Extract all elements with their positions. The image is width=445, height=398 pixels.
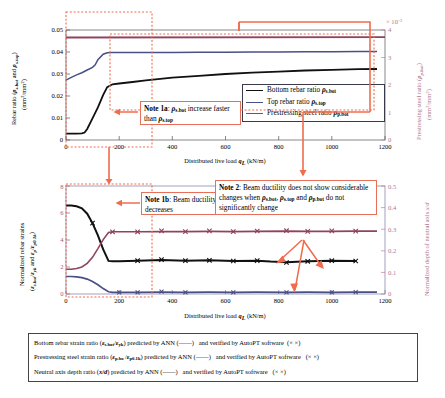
svg-text:0: 0: [60, 136, 64, 143]
legend-label-prestressing-steel-ratio: Prestressing steel ratio ρp.bot: [267, 110, 349, 117]
svg-text:600: 600: [221, 297, 232, 304]
legend-item-prestressing-steel-ratio: Prestressing steel ratio ρp.bot: [243, 108, 384, 120]
svg-text:400: 400: [167, 297, 178, 304]
top-chart-legend: Bottom rebar ratio ρs.bot Top rebar rati…: [242, 84, 385, 122]
series-prestressing-steel-strain-ratio: [66, 277, 377, 293]
note-1b-text: Note 1b: Beam ductility decreases: [145, 195, 216, 214]
legend-item-bottom-rebar-ratio: Bottom rebar ratio ρs.bot: [243, 85, 384, 97]
svg-text:200: 200: [114, 143, 125, 150]
svg-text:2: 2: [60, 263, 63, 270]
top-chart-xlabel: Distributed live load qL (kN/m): [184, 157, 265, 166]
note-1a-text: Note 1a: ρs.bot increase faster than ρs.…: [144, 104, 230, 123]
top-chart-xticklabels: 0 200 400 600 800 1000 1200: [64, 143, 392, 150]
svg-text:0.1: 0.1: [388, 269, 396, 276]
svg-text:0.3: 0.3: [388, 226, 397, 233]
svg-text:1200: 1200: [378, 143, 392, 150]
svg-text:0.04: 0.04: [51, 48, 63, 55]
series-top-rebar-ratio: [66, 52, 377, 81]
legend-label-top-rebar-ratio: Top rebar ratio ρs.top: [267, 99, 326, 106]
svg-text:3: 3: [388, 54, 392, 61]
legend-item-top-rebar-ratio: Top rebar ratio ρs.top: [243, 97, 384, 109]
svg-text:1000: 1000: [325, 143, 339, 150]
svg-text:1: 1: [388, 109, 391, 116]
svg-text:400: 400: [167, 143, 178, 150]
bottom-chart-xlabel: Distributed live load qL (kN/m): [184, 312, 265, 321]
note-1a: Note 1a: ρs.bot increase faster than ρs.…: [140, 101, 241, 125]
series-neutral-axis-depth-ratio: [66, 231, 377, 269]
svg-text:800: 800: [274, 297, 285, 304]
top-chart-ylabel-right: Prestressing steel ratio (ρp.bot): [415, 63, 424, 140]
svg-text:600: 600: [221, 143, 232, 150]
svg-text:2: 2: [388, 81, 391, 88]
note-2-text: Note 2: Beam ductility does not show con…: [219, 183, 368, 212]
bottom-chart-ylabel-right: Normalized depth of neutral axis x/d: [423, 202, 430, 296]
svg-text:0.5: 0.5: [388, 183, 397, 190]
bottom-chart-xticklabels: 0 200 400 600 800 1000 1200: [64, 297, 392, 304]
svg-text:0.4: 0.4: [388, 204, 397, 211]
note-1b: Note 1b: Beam ductility decreases: [141, 192, 221, 215]
top-chart-ylabel-left: Rebar ratio (ρs.bot and ρs.top): [10, 52, 19, 125]
top-chart-ylabel-right-units: (mm2/mm2): [425, 89, 433, 120]
markers-bottom-rebar-strain-ratio: [90, 221, 358, 265]
svg-text:0: 0: [64, 143, 68, 150]
svg-text:1200: 1200: [378, 297, 392, 304]
caption-line-neutral-axis-depth: Neutral axis depth ratio (x/d) predicted…: [34, 365, 412, 379]
caption-line-prestressing-steel-strain: Prestressing steel strain ratio (εp.bo /…: [34, 351, 412, 365]
svg-text:0: 0: [64, 297, 68, 304]
svg-text:1000: 1000: [325, 297, 339, 304]
svg-text:200: 200: [114, 297, 125, 304]
bottom-chart-ylabel-left: Normalized rebar strains: [18, 222, 25, 286]
svg-text:0.02: 0.02: [51, 92, 63, 99]
svg-text:800: 800: [274, 143, 285, 150]
bottom-chart-yticklabels-left: 0 2 4 6 8: [60, 183, 64, 297]
svg-text:6: 6: [60, 209, 64, 216]
svg-text:4: 4: [60, 236, 64, 243]
note-2: Note 2: Beam ductility does not show con…: [215, 180, 377, 215]
svg-text:0.05: 0.05: [51, 26, 63, 33]
legend-swatch-prestressing-steel-ratio: [246, 113, 263, 114]
top-chart-ylabel-left-units: (mm2/mm2): [20, 79, 28, 110]
legend-label-bottom-rebar-ratio: Bottom rebar ratio ρs.bot: [267, 87, 336, 94]
top-chart-yticklabels-left: 0 0.01 0.02 0.03 0.04 0.05: [51, 26, 63, 143]
figure-root: 0 200 400 600 800 1000 1200 0 0.01 0.02 …: [0, 0, 445, 398]
svg-text:0.2: 0.2: [388, 247, 396, 254]
bottom-chart-ylabel-left-units: (εs.bot/εyk and εp/εp0.1k): [28, 232, 37, 291]
legend-swatch-top-rebar-ratio: [246, 102, 263, 103]
top-chart-yticklabels-right: 0 1 2 3 4: [388, 26, 392, 143]
svg-text:4: 4: [388, 26, 392, 33]
legend-swatch-bottom-rebar-ratio: [246, 90, 263, 91]
bottom-chart-yticklabels-right: 0 0.1 0.2 0.3 0.4 0.5: [388, 183, 397, 297]
svg-text:0.01: 0.01: [51, 114, 63, 121]
caption-line-bottom-rebar-strain: Bottom rebar strain ratio (εs.bot/εyk) p…: [34, 337, 412, 351]
svg-text:0.03: 0.03: [51, 70, 63, 77]
figure-caption: Bottom rebar strain ratio (εs.bot/εyk) p…: [28, 333, 418, 382]
svg-text:8: 8: [60, 183, 64, 190]
top-chart-right-exponent: × 10-3: [386, 18, 403, 26]
